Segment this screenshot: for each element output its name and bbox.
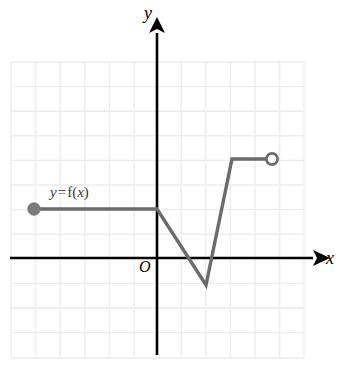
equation-equals-sign: = xyxy=(57,184,67,200)
equation-close-paren: ) xyxy=(84,184,89,200)
origin-label: O xyxy=(139,259,151,275)
function-curve xyxy=(34,159,272,285)
open-endpoint-dot xyxy=(266,153,277,164)
equation-y-symbol: y xyxy=(50,184,57,200)
x-axis-label: x xyxy=(326,249,334,267)
function-graph-figure: y x O y=f(x) xyxy=(0,0,344,376)
equation-x-symbol: x xyxy=(77,184,84,200)
function-equation-label: y=f(x) xyxy=(50,185,89,200)
closed-endpoint-dot xyxy=(28,203,40,215)
function-curve-layer xyxy=(28,153,278,285)
y-axis-label: y xyxy=(144,4,152,22)
